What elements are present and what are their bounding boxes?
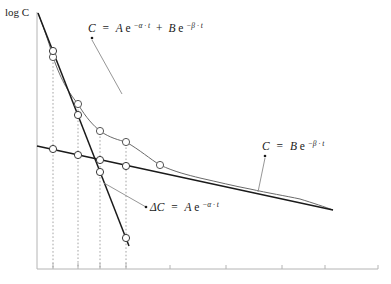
terminal-eq-lhs: C — [262, 140, 270, 152]
total-eq-equals: = — [103, 22, 110, 34]
data-point-marker — [49, 145, 56, 152]
figure-background — [0, 0, 391, 284]
total-eq-exp-2: −β · t — [186, 21, 203, 30]
terminal-eq-exp: −β · t — [308, 139, 325, 148]
terminal-eq-equals: = — [277, 140, 284, 152]
total-eq-base-1: e — [125, 22, 130, 34]
data-point-marker — [96, 127, 103, 134]
total-eq-lhs: C — [88, 22, 96, 34]
data-point-marker — [74, 111, 81, 118]
residual-eq-lhs: ΔC — [149, 201, 165, 213]
leader-dot-terminal — [264, 155, 267, 158]
data-point-marker — [96, 168, 103, 175]
data-point-marker — [49, 47, 56, 54]
y-axis-label: log C — [5, 6, 29, 18]
residual-eq-exp: −α · t — [202, 200, 220, 209]
total-eq-exp-1: −α · t — [133, 21, 151, 30]
data-point-marker — [96, 156, 103, 163]
data-point-marker — [156, 161, 163, 168]
total-eq-coef-b: B — [168, 22, 175, 34]
total-eq-base-2: e — [178, 22, 183, 34]
residual-eq-base: e — [194, 201, 199, 213]
total-eq-plus: + — [156, 22, 163, 34]
residual-eq-coef: A — [183, 201, 192, 213]
data-point-marker — [122, 234, 129, 241]
leader-dot-residual — [145, 206, 148, 209]
data-point-marker — [74, 100, 81, 107]
data-point-marker — [74, 151, 81, 158]
terminal-eq-coef: B — [290, 140, 297, 152]
terminal-eq-base: e — [300, 140, 305, 152]
decay-curve-figure: log C C = A e −α · t + B e −β · t C = B … — [0, 0, 391, 284]
total-eq-coef-a: A — [115, 22, 124, 34]
leader-dot-total — [91, 37, 94, 40]
data-point-marker — [122, 162, 129, 169]
data-point-marker — [122, 138, 129, 145]
residual-eq-equals: = — [171, 201, 178, 213]
